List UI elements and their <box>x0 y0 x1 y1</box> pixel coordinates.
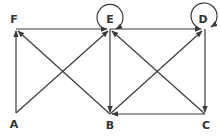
edge-A-E <box>16 31 108 113</box>
node-label-F: F <box>10 13 18 26</box>
edge-B-D <box>110 31 202 114</box>
edge-B-F <box>18 31 110 114</box>
node-label-D: D <box>198 13 207 26</box>
directed-graph-diagram: F E D A B C <box>0 0 221 136</box>
edge-C-E <box>112 31 205 114</box>
node-label-E: E <box>106 13 114 26</box>
node-label-A: A <box>10 118 19 131</box>
node-label-B: B <box>106 119 114 132</box>
node-label-C: C <box>202 119 210 132</box>
